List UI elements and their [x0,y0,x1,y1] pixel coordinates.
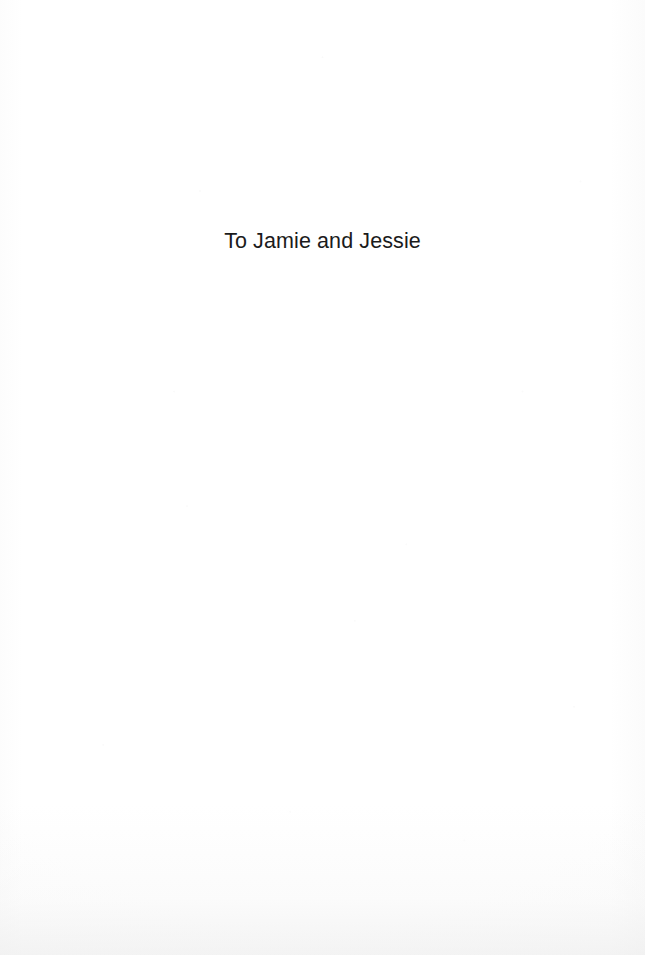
scan-shadow-right [611,0,645,955]
scan-noise-overlay [0,0,645,955]
paper-tone-overlay [0,0,645,955]
dedication-text: To Jamie and Jessie [224,228,421,254]
scan-shadow-left [0,0,22,955]
scanned-book-page: To Jamie and Jessie [0,0,645,955]
scan-shadow-bottom [0,805,645,955]
dedication-block: To Jamie and Jessie [0,228,645,254]
